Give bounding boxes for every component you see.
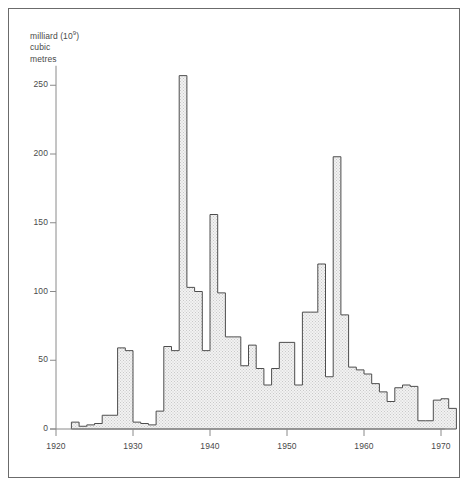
histogram-bar bbox=[295, 385, 303, 429]
histogram-bar bbox=[102, 415, 110, 429]
x-axis-tick-label: 1920 bbox=[36, 441, 76, 451]
y-axis-tick-label: 250 bbox=[18, 79, 48, 89]
y-axis-tick-label: 200 bbox=[18, 148, 48, 158]
histogram-bar bbox=[372, 384, 380, 429]
histogram-bar bbox=[403, 385, 411, 429]
histogram-bar bbox=[279, 342, 287, 429]
histogram-bar bbox=[287, 342, 295, 429]
histogram-bar bbox=[95, 424, 103, 430]
histogram-bar bbox=[87, 425, 95, 429]
histogram-bar bbox=[426, 421, 434, 429]
histogram-bar bbox=[326, 377, 334, 429]
x-axis-tick-label: 1940 bbox=[190, 441, 230, 451]
y-axis-tick-label: 50 bbox=[18, 354, 48, 364]
y-axis-tick-label: 100 bbox=[18, 286, 48, 296]
histogram-bar bbox=[110, 415, 118, 429]
histogram-bar bbox=[133, 422, 141, 429]
histogram-bar bbox=[349, 367, 357, 429]
histogram-bar bbox=[341, 315, 349, 429]
histogram-bar bbox=[356, 370, 364, 429]
histogram-bar bbox=[202, 351, 210, 429]
histogram-bar bbox=[441, 399, 449, 429]
histogram-bar bbox=[225, 337, 233, 429]
x-axis-tick-label: 1960 bbox=[344, 441, 384, 451]
y-axis-tick-label: 150 bbox=[18, 217, 48, 227]
histogram-bar bbox=[395, 388, 403, 429]
histogram-bar bbox=[179, 76, 187, 429]
histogram-bar bbox=[141, 424, 149, 430]
histogram-bar bbox=[233, 337, 241, 429]
histogram-bar bbox=[164, 347, 172, 430]
histogram-bar bbox=[272, 369, 280, 430]
histogram-bar bbox=[264, 385, 272, 429]
histogram-bar bbox=[148, 425, 156, 429]
x-axis-tick-label: 1950 bbox=[267, 441, 307, 451]
histogram-bar bbox=[410, 386, 418, 429]
histogram-bar bbox=[218, 293, 226, 429]
histogram-bar bbox=[71, 422, 79, 429]
histogram-bar bbox=[195, 292, 203, 430]
histogram-bar bbox=[387, 402, 395, 430]
histogram-bar bbox=[210, 215, 218, 430]
histogram-bar bbox=[249, 345, 257, 429]
bars-group bbox=[71, 76, 456, 429]
histogram-bar bbox=[172, 351, 180, 429]
histogram-bar bbox=[433, 400, 441, 429]
x-axis-tick-label: 1930 bbox=[113, 441, 153, 451]
histogram-bar bbox=[187, 287, 195, 429]
histogram-bar bbox=[333, 157, 341, 429]
histogram-bar bbox=[241, 366, 249, 429]
histogram-bar bbox=[125, 351, 133, 429]
histogram-bar bbox=[302, 312, 310, 429]
histogram-bar bbox=[449, 408, 457, 429]
histogram-bar bbox=[310, 312, 318, 429]
histogram-bar bbox=[364, 374, 372, 429]
histogram-bar bbox=[118, 348, 126, 429]
histogram-bar bbox=[318, 264, 326, 429]
y-axis-tick-label: 0 bbox=[18, 423, 48, 433]
histogram-bar bbox=[156, 411, 164, 429]
histogram-bar bbox=[418, 421, 426, 429]
histogram-plot bbox=[0, 0, 470, 487]
x-axis-tick-label: 1970 bbox=[421, 441, 461, 451]
histogram-bar bbox=[256, 369, 264, 430]
histogram-bar bbox=[379, 392, 387, 429]
